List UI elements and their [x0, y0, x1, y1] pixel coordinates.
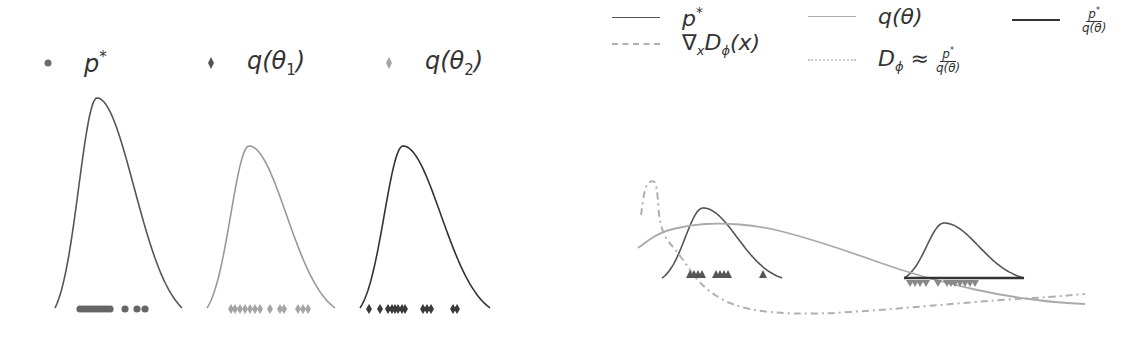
density-curve [904, 223, 1024, 278]
density-curve [207, 146, 335, 308]
diamond-sample-marker-icon [305, 304, 311, 314]
circle-sample-marker-icon [133, 305, 140, 312]
diamond-sample-marker-icon [454, 304, 460, 314]
triangle-down-marker-icon [934, 280, 942, 287]
circle-sample-marker-icon [141, 305, 148, 312]
diamond-sample-marker-icon [428, 304, 434, 314]
plots-canvas [0, 0, 1121, 342]
series-line [638, 224, 1085, 304]
diamond-sample-marker-icon [366, 304, 372, 314]
triangle-down-marker-icon [922, 280, 930, 287]
density-curve [55, 98, 182, 308]
diamond-sample-marker-icon [281, 304, 287, 314]
diamond-sample-marker-icon [377, 304, 383, 314]
diamond-sample-marker-icon [267, 304, 273, 314]
series-line [641, 181, 1085, 313]
triangle-down-marker-icon [971, 280, 979, 287]
triangle-up-marker-icon [759, 270, 767, 278]
density-curve [360, 146, 490, 308]
circle-sample-marker-icon [121, 305, 128, 312]
circle-sample-marker-icon [106, 305, 113, 312]
diamond-sample-marker-icon [257, 304, 263, 314]
density-curve [662, 208, 782, 278]
